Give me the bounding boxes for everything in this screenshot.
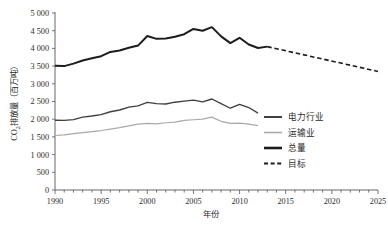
- series-line-总量: [55, 27, 267, 66]
- y-tick-label: 2 500: [31, 97, 49, 106]
- y-tick-label: 3 000: [31, 80, 49, 89]
- co2-emissions-chart: 05001 0001 5002 0002 5003 0003 5004 0004…: [0, 0, 388, 235]
- x-tick-label: 2005: [185, 197, 201, 206]
- y-tick-label: 4 000: [31, 44, 49, 53]
- y-axis-title-text: CO2排放量（百万吨）: [9, 62, 21, 141]
- y-axis-title: CO2排放量（百万吨）: [9, 62, 21, 141]
- legend-label-2: 总量: [288, 142, 306, 153]
- y-tick-label: 1 500: [31, 133, 49, 142]
- x-tick-label: 2010: [231, 197, 247, 206]
- series-line-运输业: [55, 117, 258, 135]
- y-tick-label: 5 000: [31, 9, 49, 18]
- y-tick-label: 4 500: [31, 27, 49, 36]
- x-tick-label: 2000: [139, 197, 155, 206]
- x-axis-title: 年份: [203, 209, 220, 219]
- chart-canvas: 05001 0001 5002 0002 5003 0003 5004 0004…: [0, 0, 388, 235]
- series-line-电力行业: [55, 99, 258, 120]
- x-tick-label: 2025: [370, 197, 386, 206]
- x-tick-label: 1990: [47, 197, 63, 206]
- series-line-目标: [267, 47, 378, 72]
- legend-label-0: 电力行业: [288, 111, 324, 122]
- y-tick-label: 0: [45, 186, 49, 195]
- y-tick-label: 3 500: [31, 62, 49, 71]
- y-tick-label: 1 000: [31, 151, 49, 160]
- x-tick-label: 2015: [278, 197, 294, 206]
- legend-label-1: 运输业: [288, 127, 315, 138]
- y-tick-label: 500: [37, 168, 49, 177]
- y-tick-label: 2 000: [31, 115, 49, 124]
- x-tick-label: 2020: [324, 197, 340, 206]
- legend-label-3: 目标: [288, 158, 306, 169]
- x-tick-label: 1995: [93, 197, 109, 206]
